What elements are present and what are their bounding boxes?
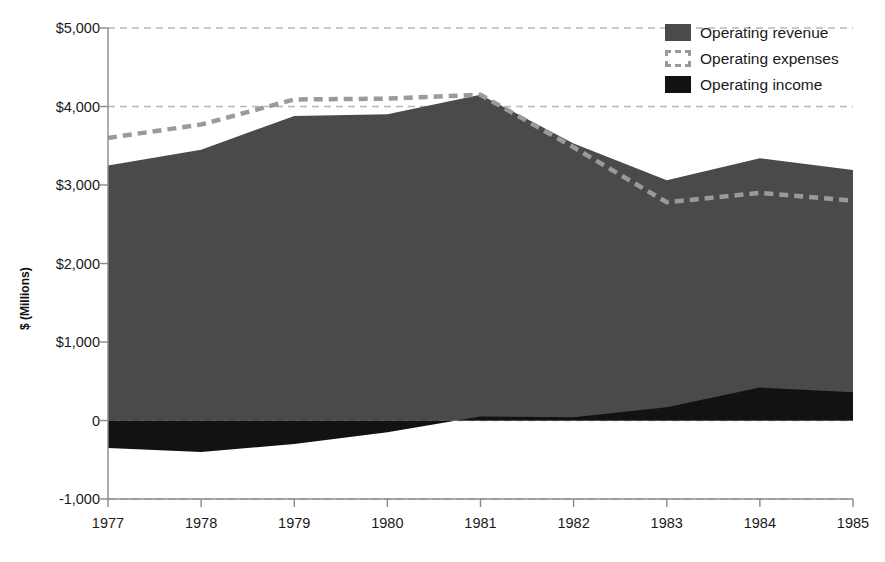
x-axis-tick-label: 1981 bbox=[441, 516, 521, 531]
x-axis-tick-label: 1983 bbox=[627, 516, 707, 531]
series-layer bbox=[108, 95, 853, 452]
x-axis-tick-label: 1982 bbox=[534, 516, 614, 531]
legend-item-operating-revenue[interactable]: Operating revenue bbox=[665, 22, 839, 43]
area-operating-revenue bbox=[108, 95, 853, 421]
x-axis-tick-label: 1980 bbox=[347, 516, 427, 531]
y-axis-tick-label: $1,000 bbox=[56, 335, 100, 350]
legend-swatch-operating-income bbox=[665, 76, 691, 93]
x-axis-tick-label: 1977 bbox=[68, 516, 148, 531]
y-axis-tick-label: $3,000 bbox=[56, 178, 100, 193]
y-axis-tick-label: -1,000 bbox=[59, 492, 100, 507]
legend-label-operating-expenses: Operating expenses bbox=[700, 50, 839, 68]
legend-label-operating-income: Operating income bbox=[700, 76, 822, 94]
x-axis-tick-label: 1978 bbox=[161, 516, 241, 531]
y-axis-tick-label: $4,000 bbox=[56, 100, 100, 115]
y-axis-tick-label: $2,000 bbox=[56, 257, 100, 272]
x-axis-tick-label: 1985 bbox=[813, 516, 885, 531]
legend-swatch-operating-expenses bbox=[665, 50, 691, 67]
legend-item-operating-expenses[interactable]: Operating expenses bbox=[665, 48, 839, 69]
y-axis-tick-label: 0 bbox=[92, 414, 100, 429]
y-axis-tick-label: $5,000 bbox=[56, 21, 100, 36]
y-axis-title: $ (Millions) bbox=[18, 267, 32, 330]
chart-legend: Operating revenue Operating expenses Ope… bbox=[665, 22, 839, 95]
chart-container: $ (Millions) $5,000$4,000$3,000$2,000$1,… bbox=[0, 0, 885, 562]
x-axis-tick-label: 1984 bbox=[720, 516, 800, 531]
legend-item-operating-income[interactable]: Operating income bbox=[665, 74, 839, 95]
x-axis-tick-marks bbox=[108, 499, 853, 507]
y-axis-tick-marks bbox=[100, 28, 108, 499]
x-axis-tick-label: 1979 bbox=[254, 516, 334, 531]
legend-label-operating-revenue: Operating revenue bbox=[700, 24, 828, 42]
legend-swatch-operating-revenue bbox=[665, 24, 691, 41]
